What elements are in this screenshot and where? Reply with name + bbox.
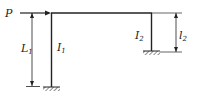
inertia-label-i1: I1 [56, 41, 66, 55]
length-label-l1: L1 [20, 42, 33, 56]
fixed-support-left [43, 87, 60, 91]
length-label-l2: l2 [179, 29, 188, 43]
arrowhead-icon [45, 11, 51, 16]
load-label: P [4, 7, 13, 20]
dimension-l2 [152, 13, 182, 52]
fixed-support-right [143, 51, 160, 55]
inertia-label-i2: I2 [134, 29, 144, 43]
load-p [20, 11, 51, 16]
frame-diagram: P L1 I1 I2 l2 [0, 0, 197, 98]
